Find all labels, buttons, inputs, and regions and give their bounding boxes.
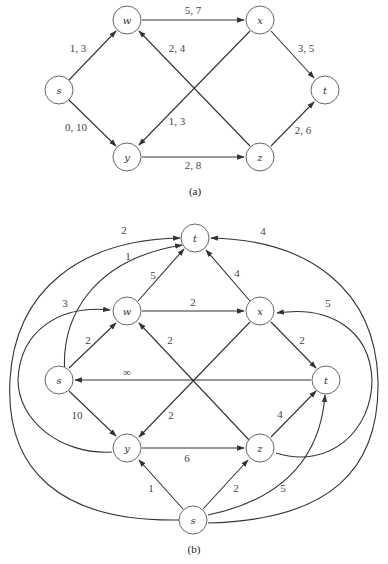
node-a-x: x <box>246 6 274 34</box>
edge-label: 6 <box>184 452 190 464</box>
edge-label: 1, 3 <box>169 115 186 127</box>
figure-b: 2 1 5 4 4 3 2 2 2 5 2 ∞ 10 2 6 4 1 2 5 t… <box>10 224 378 556</box>
edge-label: 2 <box>233 482 239 494</box>
svg-text:s: s <box>190 515 195 526</box>
edge-b-w-T <box>138 249 184 301</box>
node-b-s-bottom: s <box>179 506 207 534</box>
edge-label: 4 <box>234 267 240 279</box>
edge-b-s-w <box>69 323 116 368</box>
node-a-s: s <box>45 76 73 104</box>
edge-label: 2 <box>85 334 91 346</box>
node-b-z: z <box>246 434 274 462</box>
node-b-t-top: t <box>181 224 209 252</box>
edge-label: ∞ <box>123 366 131 378</box>
edge-label: 1, 3 <box>70 42 87 54</box>
edge-label: 2, 4 <box>169 42 186 54</box>
node-b-w: w <box>113 297 141 325</box>
node-b-y: y <box>113 434 141 462</box>
edge-label: 5, 7 <box>185 4 202 16</box>
edge-label: 1 <box>125 250 131 262</box>
svg-text:w: w <box>123 306 132 317</box>
edge-label: 4 <box>260 225 266 237</box>
edge-label: 3 <box>62 297 68 309</box>
edge-b-S-z <box>203 460 248 509</box>
node-b-t-right: t <box>312 366 340 394</box>
edge-label: 2 <box>167 334 173 346</box>
edge-label: 2 <box>168 409 174 421</box>
svg-text:x: x <box>257 15 263 26</box>
node-b-s-left: s <box>45 366 73 394</box>
edge-label: 0, 10 <box>65 121 88 133</box>
svg-text:y: y <box>123 152 130 163</box>
edge-a-x-t <box>271 31 314 78</box>
edge-a-s-w <box>69 31 116 80</box>
edge-label: 4 <box>277 408 283 420</box>
svg-text:y: y <box>123 443 130 454</box>
caption-b: (b) <box>188 543 201 556</box>
edge-label: 2 <box>121 224 127 236</box>
node-a-t: t <box>311 76 339 104</box>
svg-text:z: z <box>256 152 263 163</box>
network-flow-diagram: 1, 3 0, 10 5, 7 2, 4 1, 3 3, 5 2, 8 2, 6… <box>0 0 388 564</box>
edge-label: 10 <box>72 409 84 421</box>
svg-text:s: s <box>56 375 61 386</box>
edge-label: 5 <box>325 297 331 309</box>
edge-b-x-T <box>206 250 250 301</box>
svg-text:x: x <box>257 306 263 317</box>
edge-label: 5 <box>280 482 286 494</box>
edge-b-x-t <box>271 322 316 368</box>
edge-label: 2, 8 <box>185 159 202 171</box>
node-a-y: y <box>113 143 141 171</box>
edge-b-S-y <box>139 460 183 509</box>
edge-label: 2 <box>190 296 196 308</box>
svg-text:z: z <box>256 443 263 454</box>
edge-b-z-w <box>139 323 250 441</box>
node-a-z: z <box>246 143 274 171</box>
edge-label: 2 <box>299 334 305 346</box>
edge-label: 5 <box>150 269 156 281</box>
caption-a: (a) <box>189 185 202 198</box>
svg-text:w: w <box>123 15 132 26</box>
edge-label: 3, 5 <box>298 42 315 54</box>
node-b-x: x <box>246 297 274 325</box>
figure-a: 1, 3 0, 10 5, 7 2, 4 1, 3 3, 5 2, 8 2, 6… <box>45 4 339 198</box>
svg-text:s: s <box>56 85 61 96</box>
edge-label: 2, 6 <box>295 124 312 136</box>
node-a-w: w <box>113 6 141 34</box>
edge-label: 1 <box>148 482 154 494</box>
